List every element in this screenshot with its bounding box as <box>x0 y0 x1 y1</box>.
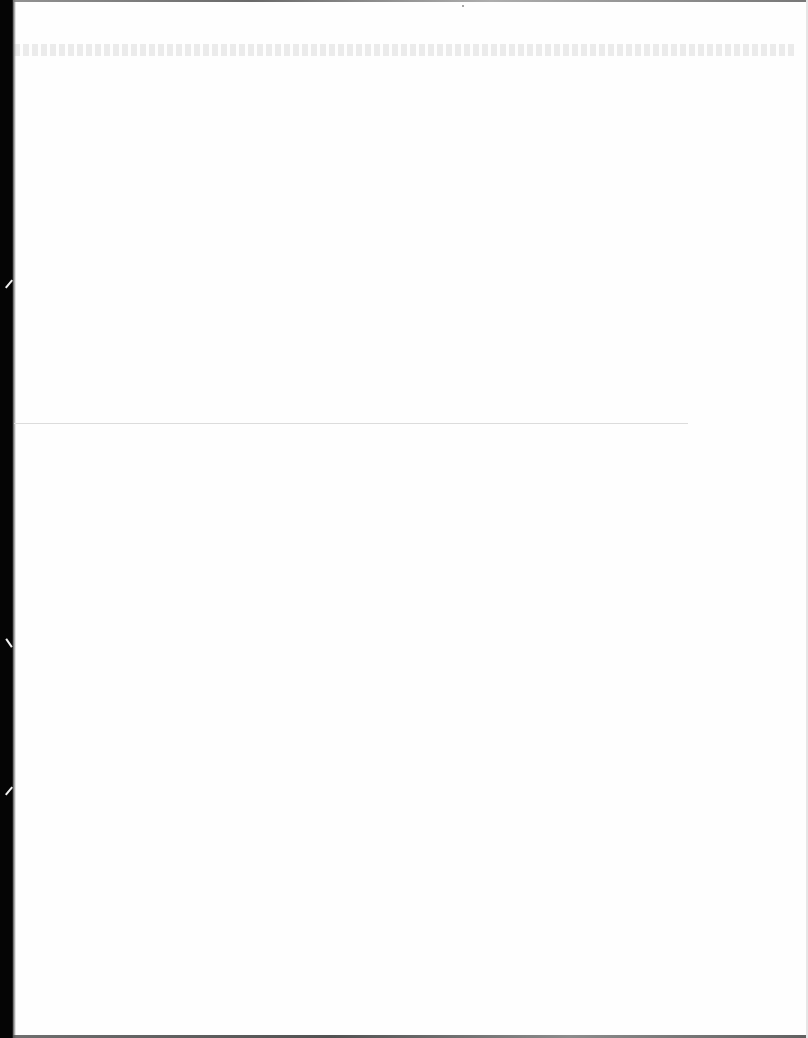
scanner-edge-left <box>0 0 13 1038</box>
scanner-edge-top <box>13 0 808 2</box>
horizontal-rule <box>14 423 688 424</box>
scanned-page <box>0 0 808 1038</box>
dust-speck <box>462 5 464 7</box>
bleed-through-text <box>14 44 794 56</box>
